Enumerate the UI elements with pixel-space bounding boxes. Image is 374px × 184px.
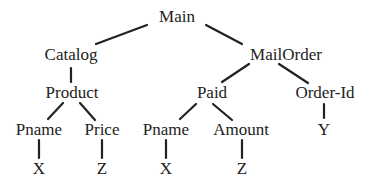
edge-product-pname1 [48, 103, 63, 119]
node-paid: Paid [197, 83, 228, 102]
node-amount: Amount [213, 120, 269, 139]
node-pname2: Pname [143, 120, 189, 139]
edge-main-mailorder [206, 25, 242, 44]
edge-product-price [80, 103, 95, 120]
node-z1: Z [97, 159, 107, 178]
node-product: Product [46, 83, 99, 102]
node-price: Price [85, 120, 120, 139]
node-orderid: Order-Id [295, 83, 355, 102]
edge-paid-pname2 [180, 104, 196, 119]
node-pname1: Pname [16, 120, 62, 139]
edge-paid-amount [213, 104, 232, 120]
tree-diagram: MainCatalogMailOrderProductPaidOrder-IdP… [0, 0, 374, 184]
node-mailorder: MailOrder [250, 45, 322, 64]
node-catalog: Catalog [45, 45, 98, 64]
node-main: Main [159, 7, 195, 26]
node-y: Y [318, 120, 330, 139]
node-x2: X [160, 159, 172, 178]
node-z2: Z [237, 159, 247, 178]
edge-main-catalog [96, 25, 147, 44]
node-x1: X [33, 159, 45, 178]
tree-nodes: MainCatalogMailOrderProductPaidOrder-IdP… [16, 7, 355, 178]
edge-mailorder-paid [222, 64, 249, 82]
edge-mailorder-orderid [279, 64, 308, 83]
